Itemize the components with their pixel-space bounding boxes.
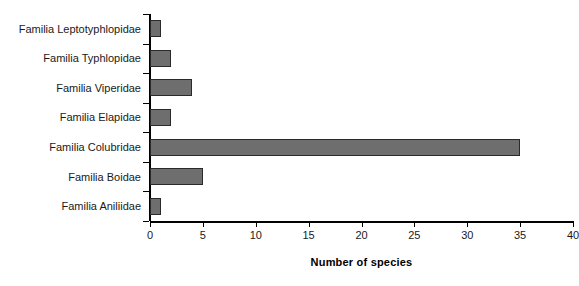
y-axis-tick [143,73,149,74]
x-axis-tick [414,221,415,227]
x-axis-title: Number of species [150,256,573,268]
x-axis-tick-label: 10 [250,229,262,241]
bar-band [150,191,573,221]
bar-familia-elapidae [150,109,171,126]
bar-band [150,132,573,162]
x-axis-ticks [150,221,573,227]
x-axis-tick-label: 30 [461,229,473,241]
x-axis-tick [309,221,310,227]
x-axis-tick-labels: 0510152025303540 [150,229,573,245]
y-axis-tick [143,44,149,45]
y-axis-tick [143,221,149,222]
bar-band [150,73,573,103]
y-axis-tick [143,14,149,15]
y-axis-tick [143,103,149,104]
bar-series [150,14,573,221]
y-axis-tick [143,132,149,133]
bar-chart: Familia Leptotyphlopidae Familia Typhlop… [0,0,579,286]
bar-familia-typhlopidae [150,50,171,67]
plot-area [150,14,573,221]
y-axis-tick [143,191,149,192]
category-axis-labels: Familia Leptotyphlopidae Familia Typhlop… [0,14,146,221]
bar-band [150,44,573,74]
category-label: Familia Leptotyphlopidae [0,14,146,44]
x-axis-tick [573,221,574,227]
bar-familia-boidae [150,168,203,185]
category-label: Familia Viperidae [0,73,146,103]
x-axis-tick-label: 15 [303,229,315,241]
x-axis-tick [256,221,257,227]
category-label: Familia Aniliidae [0,191,146,221]
y-axis-tick [143,162,149,163]
x-axis-tick [203,221,204,227]
x-axis-tick-label: 5 [200,229,206,241]
bar-band [150,103,573,133]
x-axis-tick-label: 35 [514,229,526,241]
bar-familia-colubridae [150,139,520,156]
bar-familia-leptotyphlopidae [150,20,161,37]
x-axis-tick-label: 40 [567,229,579,241]
x-axis-tick-label: 25 [408,229,420,241]
category-label: Familia Elapidae [0,103,146,133]
bar-band [150,162,573,192]
bar-familia-aniliidae [150,198,161,215]
x-axis-tick [467,221,468,227]
x-axis-tick-label: 20 [355,229,367,241]
category-label: Familia Typhlopidae [0,44,146,74]
bar-band [150,14,573,44]
x-axis-tick-label: 0 [147,229,153,241]
x-axis-tick [150,221,151,227]
x-axis-tick [362,221,363,227]
category-label: Familia Colubridae [0,132,146,162]
bar-familia-viperidae [150,79,192,96]
x-axis-tick [520,221,521,227]
category-label: Familia Boidae [0,162,146,192]
